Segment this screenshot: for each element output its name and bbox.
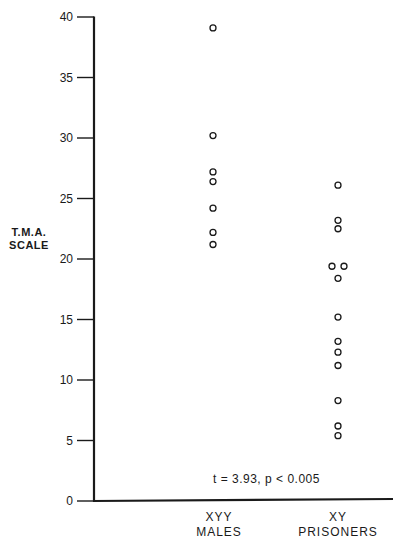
data-point-open-circle <box>335 217 341 223</box>
data-point-open-circle <box>210 25 216 31</box>
data-point-open-circle <box>210 205 216 211</box>
data-point-open-circle <box>335 423 341 429</box>
y-axis-label-line2: SCALE <box>8 239 50 252</box>
data-point-open-circle <box>341 263 347 269</box>
x-axis-line <box>93 499 393 501</box>
statistics-annotation: t = 3.93, p < 0.005 <box>213 472 320 486</box>
y-tick-label: 40 <box>43 11 73 23</box>
category-label-line2: MALES <box>169 525 269 540</box>
data-point-open-circle <box>335 314 341 320</box>
data-point-open-circle <box>210 169 216 175</box>
data-point-open-circle <box>335 338 341 344</box>
y-tick-label: 35 <box>43 72 73 84</box>
category-label-xyy-males: XYY MALES <box>169 510 269 540</box>
data-point-open-circle <box>210 229 216 235</box>
data-point-open-circle <box>210 241 216 247</box>
category-label-line2: PRISONERS <box>288 525 388 540</box>
category-label-line1: XYY <box>169 510 269 525</box>
data-point-open-circle <box>335 275 341 281</box>
y-tick-label: 30 <box>43 132 73 144</box>
data-point-open-circle <box>335 362 341 368</box>
data-point-open-circle <box>335 398 341 404</box>
y-tick-label: 20 <box>43 253 73 265</box>
y-tick-label: 10 <box>43 374 73 386</box>
scatter-chart: 0510152025303540 T.M.A. SCALE XYY MALES … <box>0 0 402 545</box>
data-point-open-circle <box>335 433 341 439</box>
y-tick-label: 25 <box>43 193 73 205</box>
y-axis-label-line1: T.M.A. <box>8 226 50 239</box>
data-point-open-circle <box>210 133 216 139</box>
data-point-open-circle <box>335 182 341 188</box>
data-point-open-circle <box>335 349 341 355</box>
y-axis-label: T.M.A. SCALE <box>8 226 50 252</box>
data-point-open-circle <box>329 263 335 269</box>
category-label-line1: XY <box>288 510 388 525</box>
y-tick-label: 0 <box>43 495 73 507</box>
data-point-open-circle <box>210 179 216 185</box>
y-tick-label: 15 <box>43 314 73 326</box>
y-tick-label: 5 <box>43 435 73 447</box>
data-point-open-circle <box>335 226 341 232</box>
category-label-xy-prisoners: XY PRISONERS <box>288 510 388 540</box>
